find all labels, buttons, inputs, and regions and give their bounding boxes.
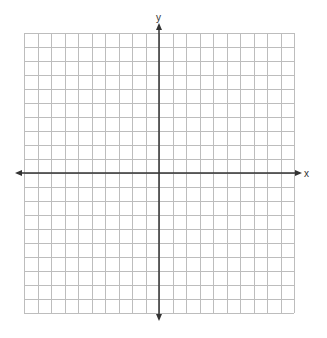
coordinate-plane: x y (0, 0, 327, 338)
x-axis-label: x (304, 168, 309, 179)
y-axis-label: y (156, 12, 161, 23)
background (0, 0, 327, 338)
